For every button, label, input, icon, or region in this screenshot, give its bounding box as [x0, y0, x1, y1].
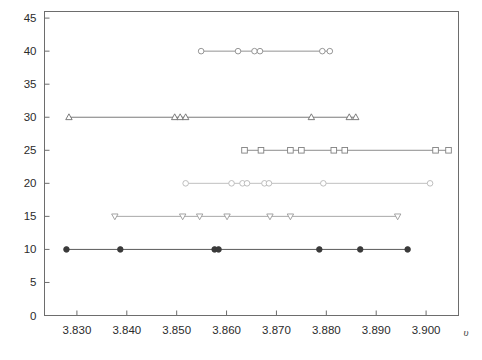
data-point-marker: [216, 247, 222, 253]
data-point-marker: [342, 147, 348, 153]
x-axis-tick-labels: 3.8303.8403.8503.8603.8703.8803.8903.900: [63, 324, 441, 336]
series-level-10: [64, 247, 411, 253]
data-point-marker: [288, 147, 294, 153]
series-level-40: [198, 48, 332, 54]
series-level-15: [112, 214, 401, 220]
data-point-marker: [235, 48, 241, 54]
y-tick-label: 10: [24, 243, 37, 255]
chart-canvas: 3.8303.8403.8503.8603.8703.8803.8903.900…: [0, 0, 482, 360]
y-tick-label: 20: [24, 177, 37, 189]
data-point-marker: [299, 147, 305, 153]
x-tick-label: 3.840: [112, 324, 141, 336]
data-point-marker: [118, 247, 124, 253]
data-point-marker: [327, 48, 333, 54]
data-point-marker: [427, 181, 433, 187]
plot-frame: [45, 12, 459, 316]
x-tick-label: 3.900: [412, 324, 441, 336]
x-tick-label: 3.860: [212, 324, 241, 336]
data-point-marker: [321, 181, 327, 187]
scatter-chart: 3.8303.8403.8503.8603.8703.8803.8903.900…: [0, 0, 482, 360]
data-point-marker: [357, 247, 363, 253]
data-series-layer: [64, 48, 452, 252]
y-tick-label: 35: [24, 78, 37, 90]
y-tick-label: 30: [24, 111, 37, 123]
x-axis-title: υ: [463, 326, 468, 338]
series-level-25: [242, 147, 452, 153]
x-tick-label: 3.850: [162, 324, 191, 336]
y-tick-label: 25: [24, 144, 37, 156]
y-tick-label: 0: [30, 310, 36, 322]
y-axis-ticks: [45, 18, 50, 315]
data-point-marker: [317, 247, 323, 253]
y-tick-label: 40: [24, 45, 37, 57]
data-point-marker: [320, 48, 326, 54]
x-tick-label: 3.890: [362, 324, 391, 336]
data-point-marker: [198, 48, 204, 54]
x-tick-label: 3.870: [262, 324, 291, 336]
x-tick-label: 3.830: [63, 324, 92, 336]
data-point-marker: [244, 181, 250, 187]
data-point-marker: [405, 247, 411, 253]
data-point-marker: [433, 147, 439, 153]
data-point-marker: [252, 48, 258, 54]
y-tick-label: 15: [24, 210, 37, 222]
series-level-20: [183, 181, 433, 187]
x-tick-label: 3.880: [312, 324, 341, 336]
data-point-marker: [229, 181, 235, 187]
data-point-marker: [257, 48, 263, 54]
x-axis-ticks: [77, 311, 426, 316]
data-point-marker: [446, 147, 452, 153]
data-point-marker: [331, 147, 337, 153]
data-point-marker: [242, 147, 248, 153]
y-tick-label: 5: [30, 276, 36, 288]
data-point-marker: [183, 181, 189, 187]
data-point-marker: [64, 247, 70, 253]
data-point-marker: [266, 181, 272, 187]
series-level-30: [66, 114, 359, 120]
data-point-marker: [258, 147, 264, 153]
y-tick-label: 45: [24, 12, 37, 24]
y-axis-tick-labels: 051015202530354045: [24, 12, 37, 321]
